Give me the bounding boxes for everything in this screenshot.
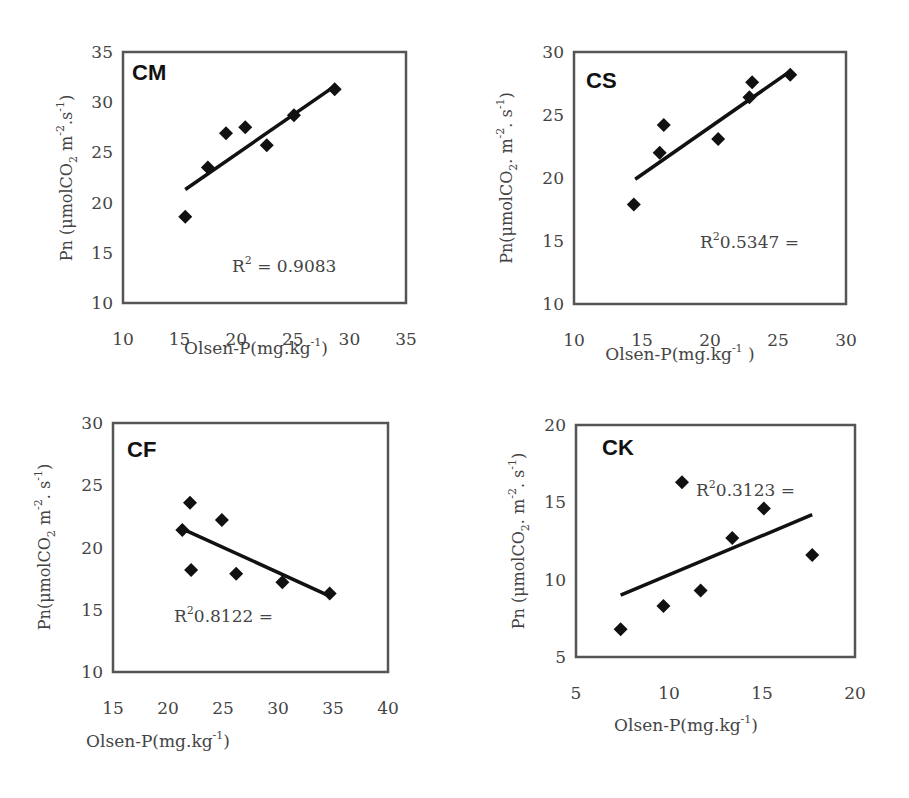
x-tick-label: 30 xyxy=(835,330,857,350)
chart-cs-svg: 10152025301015202530CSR20.5347 =Olsen-P(… xyxy=(454,0,909,399)
y-tick-label: 30 xyxy=(91,92,113,112)
panel-label: CK xyxy=(602,435,634,460)
x-axis-label: Olsen-P(mg.kg-1) xyxy=(184,336,328,358)
x-tick-label: 35 xyxy=(395,329,417,349)
y-tick-label: 15 xyxy=(542,231,564,251)
x-tick-label: 10 xyxy=(658,683,680,703)
x-axis-label: Olsen-P(mg.kg-1) xyxy=(614,713,758,735)
x-tick-label: 15 xyxy=(102,698,124,718)
x-tick-label: 30 xyxy=(267,698,289,718)
y-tick-label: 20 xyxy=(91,193,113,213)
chart-cf: 1015202530152025303540CFR20.8122 =Olsen-… xyxy=(0,399,454,798)
y-tick-label: 20 xyxy=(81,538,103,558)
chart-cs: 10152025301015202530CSR20.5347 =Olsen-P(… xyxy=(454,0,909,399)
x-axis-label: Olsen-P(mg.kg-1) xyxy=(86,729,230,751)
y-tick-label: 5 xyxy=(555,647,566,667)
panel-label: CM xyxy=(132,60,166,85)
y-tick-label: 10 xyxy=(544,570,566,590)
chart-ck: 51015205101520CKR20.3123 =Olsen-P(mg.kg-… xyxy=(454,399,909,798)
x-tick-label: 5 xyxy=(571,683,582,703)
y-axis-label: Pn (μmolCO2. m-2. s-1) xyxy=(506,453,532,630)
y-axis-label: Pn (μmolCO2 m-2.s-1) xyxy=(54,95,80,261)
x-tick-label: 30 xyxy=(339,329,361,349)
panel-label: CF xyxy=(127,437,156,462)
y-axis-label: Pn(μmolCO2. m-2. s-1) xyxy=(494,92,520,263)
x-tick-label: 20 xyxy=(157,698,179,718)
y-tick-label: 30 xyxy=(81,413,103,433)
chart-cm: 101520253035101520253035CMR2 = 0.9083Ols… xyxy=(0,0,454,399)
chart-ck-svg: 51015205101520CKR20.3123 =Olsen-P(mg.kg-… xyxy=(454,399,909,798)
y-tick-label: 25 xyxy=(542,105,564,125)
y-tick-label: 15 xyxy=(544,492,566,512)
y-tick-label: 20 xyxy=(544,415,566,435)
y-tick-label: 10 xyxy=(542,294,564,314)
x-tick-label: 15 xyxy=(751,683,773,703)
x-axis-label: Olsen-P(mg.kg-1 ) xyxy=(605,342,754,364)
y-tick-label: 30 xyxy=(542,42,564,62)
chart-cf-svg: 1015202530152025303540CFR20.8122 =Olsen-… xyxy=(0,399,454,798)
y-tick-label: 25 xyxy=(81,475,103,495)
x-tick-label: 25 xyxy=(212,698,234,718)
y-tick-label: 15 xyxy=(91,243,113,263)
x-tick-label: 25 xyxy=(767,330,789,350)
x-tick-label: 10 xyxy=(563,330,585,350)
y-axis-label: Pn(μmolCO2 m-2. s-1) xyxy=(32,464,58,630)
y-tick-label: 10 xyxy=(91,293,113,313)
chart-cm-svg: 101520253035101520253035CMR2 = 0.9083Ols… xyxy=(0,0,454,399)
y-tick-label: 10 xyxy=(81,662,103,682)
y-tick-label: 35 xyxy=(91,42,113,62)
y-tick-label: 15 xyxy=(81,600,103,620)
x-tick-label: 35 xyxy=(322,698,344,718)
x-tick-label: 20 xyxy=(844,683,866,703)
y-tick-label: 25 xyxy=(91,142,113,162)
x-tick-label: 10 xyxy=(112,329,134,349)
panel-label: CS xyxy=(586,68,617,93)
y-tick-label: 20 xyxy=(542,168,564,188)
x-tick-label: 40 xyxy=(377,698,399,718)
